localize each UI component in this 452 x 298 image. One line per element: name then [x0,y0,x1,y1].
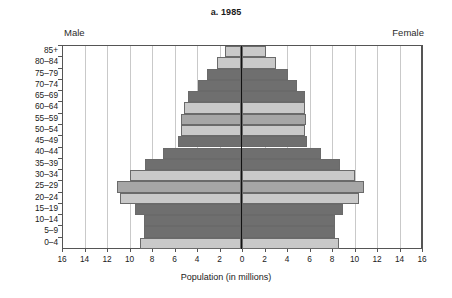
bar-female [242,80,297,91]
y-axis-tick-label: 40–44 [20,146,58,157]
bar-male [140,238,241,249]
y-axis-tick-label: 85+ [20,45,58,56]
y-axis-tick-mark [58,90,62,91]
population-pyramid-figure: a. 1985 Male Female 85+80–8475–7970–7465… [0,0,452,298]
bar-female [242,136,307,147]
x-axis-tick-label: 16 [50,254,74,264]
bar-female [242,181,364,192]
x-axis-tick-label: 0 [230,254,254,264]
bar-male [184,102,241,113]
y-axis-tick-label: 5–9 [20,225,58,236]
center-zero-line [241,46,242,249]
bar-female [242,91,305,102]
plot-area [62,45,423,249]
y-axis-tick-label: 45–49 [20,135,58,146]
bar-female [242,114,306,125]
y-axis-tick-mark [58,68,62,69]
y-axis-tick-mark [58,237,62,238]
x-axis-tick-label: 16 [410,254,434,264]
y-axis-tick-label: 15–19 [20,203,58,214]
bar-female [242,148,321,159]
bar-female [242,46,266,57]
y-axis-tick-mark [58,124,62,125]
bar-male [145,159,241,170]
y-axis-tick-label: 0–4 [20,237,58,248]
y-axis-tick-mark [58,113,62,114]
y-axis-tick-label: 20–24 [20,192,58,203]
x-axis-tick-label: 14 [73,254,97,264]
bar-male [181,114,241,125]
x-axis-tick-label: 10 [343,254,367,264]
plot-inner [62,46,422,249]
x-axis-tick-label: 12 [95,254,119,264]
bar-male [181,125,241,136]
y-axis-tick-label: 35–39 [20,158,58,169]
x-axis-tick-label: 8 [140,254,164,264]
chart-title: a. 1985 [0,7,452,17]
bar-female [242,69,288,80]
y-axis-tick-mark [58,56,62,57]
x-axis-title: Population (in millions) [0,272,452,282]
bar-female [242,57,276,68]
x-axis-tick-label: 4 [185,254,209,264]
bar-male [163,148,241,159]
y-axis-tick-mark [58,180,62,181]
bar-male [120,193,242,204]
bar-male [144,226,241,237]
y-axis-tick-mark [58,45,62,46]
y-axis-tick-mark [58,192,62,193]
x-axis-tick-label: 6 [298,254,322,264]
y-axis-tick-mark [58,158,62,159]
bar-male [144,215,241,226]
y-axis-tick-label: 70–74 [20,79,58,90]
bar-male [130,170,241,181]
x-axis-tick-mark [422,248,423,252]
y-axis-tick-label: 50–54 [20,124,58,135]
bar-female [242,215,335,226]
x-axis-tick-label: 12 [365,254,389,264]
x-axis-tick-label: 14 [388,254,412,264]
bar-male [207,69,241,80]
x-axis-tick-label: 2 [208,254,232,264]
bar-female [242,238,339,249]
x-axis-tick-label: 10 [118,254,142,264]
y-axis-tick-label: 65–69 [20,90,58,101]
y-axis-tick-label: 55–59 [20,113,58,124]
bar-female [242,204,343,215]
y-axis-tick-mark [58,225,62,226]
bar-female [242,102,305,113]
y-axis-tick-label: 30–34 [20,169,58,180]
y-axis-tick-mark [58,101,62,102]
bar-female [242,170,355,181]
bar-male [135,204,241,215]
bar-male [217,57,241,68]
bar-male [225,46,241,57]
y-axis-tick-mark [58,147,62,148]
x-axis-tick-label: 8 [320,254,344,264]
y-axis-tick-label: 10–14 [20,214,58,225]
y-axis-tick-mark [58,214,62,215]
female-group-label: Female [392,27,424,38]
x-axis-tick-label: 4 [275,254,299,264]
y-axis-tick-mark [58,79,62,80]
y-axis-tick-mark [58,169,62,170]
y-axis-tick-mark [58,135,62,136]
y-axis-tick-label: 75–79 [20,68,58,79]
bar-male [198,80,241,91]
y-axis-tick-label: 80–84 [20,56,58,67]
male-group-label: Male [64,27,85,38]
bar-male [117,181,241,192]
x-axis-tick-label: 6 [163,254,187,264]
bar-male [178,136,241,147]
bar-female [242,125,305,136]
bar-male [188,91,241,102]
x-axis-tick-label: 2 [253,254,277,264]
bar-female [242,193,359,204]
y-axis-tick-mark [58,203,62,204]
y-axis-tick-labels: 85+80–8475–7970–7465–6960–6455–5950–5445… [14,45,58,248]
y-axis-tick-label: 60–64 [20,101,58,112]
y-axis-tick-label: 25–29 [20,180,58,191]
bar-female [242,226,335,237]
bar-female [242,159,340,170]
